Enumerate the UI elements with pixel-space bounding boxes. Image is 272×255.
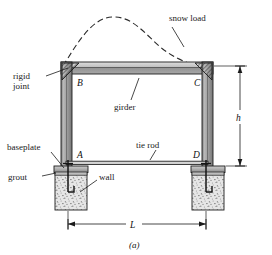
grout-leader	[42, 173, 56, 176]
snow-load-leader	[172, 27, 184, 47]
height-dimension-h	[214, 66, 247, 166]
node-label-c: C	[194, 78, 201, 88]
rigid-joint-label-line2: joint	[12, 81, 30, 91]
left-grout-layer	[55, 172, 87, 175]
tie-rod-leader	[150, 150, 156, 160]
right-baseplate	[191, 166, 225, 173]
right-base-assembly	[191, 160, 225, 210]
baseplate-label: baseplate	[7, 142, 40, 152]
girder-label: girder	[114, 102, 136, 112]
span-dimension-L	[68, 211, 206, 230]
tie-rod-member	[66, 161, 208, 164]
node-label-b: B	[77, 78, 83, 88]
girder-member	[61, 62, 213, 74]
left-base-assembly	[54, 160, 88, 210]
node-label-d: D	[192, 150, 200, 160]
tie-rod-label: tie rod	[136, 140, 160, 150]
right-wall-block	[192, 172, 224, 210]
snow-load-label: snow load	[169, 13, 206, 23]
wall-label: wall	[99, 172, 115, 182]
rigid-joint-label-line1: rigid	[13, 71, 30, 81]
snow-load-curve	[63, 17, 212, 66]
height-dimension-label: h	[236, 113, 241, 123]
grout-label: grout	[8, 172, 27, 182]
left-baseplate	[54, 166, 88, 173]
right-grout-layer	[192, 172, 224, 175]
span-dimension-label: L	[129, 220, 135, 230]
structural-frame-figure: snow load rigid joint	[0, 0, 272, 255]
girder-leader	[131, 78, 139, 100]
node-label-a: A	[76, 150, 83, 160]
left-wall-block	[55, 172, 87, 210]
figure-caption: (a)	[129, 240, 140, 250]
frame-diagram-canvas: snow load rigid joint	[0, 0, 272, 255]
